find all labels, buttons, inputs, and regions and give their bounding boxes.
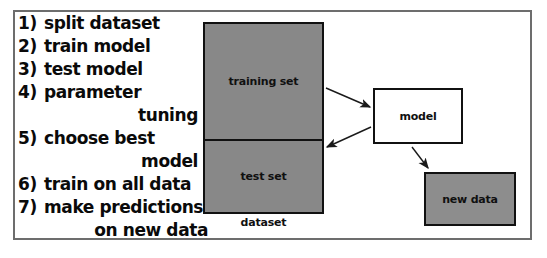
new-data-box: new data — [424, 172, 516, 226]
training-set-region: training set — [205, 24, 322, 141]
diagram-canvas: 1)split dataset 2)train model 3)test mod… — [0, 0, 547, 258]
step-number: 1) — [18, 12, 44, 35]
dataset-caption-label: dataset — [203, 216, 324, 229]
step-text: train on all data — [44, 173, 191, 196]
step-text-continuation: tuning — [138, 104, 198, 127]
step-text: test model — [44, 58, 143, 81]
dataset-box: training set test set — [203, 22, 324, 214]
list-item: 6)train on all data — [18, 173, 208, 196]
step-text: split dataset — [44, 12, 160, 35]
step-text-continuation: on new data — [94, 219, 208, 242]
list-item-continuation: on new data — [18, 219, 208, 242]
list-item-continuation: model — [18, 150, 208, 173]
list-item: 4)parameter — [18, 81, 208, 104]
new-data-label: new data — [442, 193, 498, 206]
list-item-continuation: tuning — [18, 104, 208, 127]
step-number: 6) — [18, 173, 44, 196]
step-number: 7) — [18, 196, 44, 219]
training-set-label: training set — [229, 75, 299, 88]
list-item: 2)train model — [18, 35, 208, 58]
step-text: make predictions — [44, 196, 203, 219]
list-item: 5)choose best — [18, 127, 208, 150]
list-item: 1)split dataset — [18, 12, 208, 35]
workflow-steps-list: 1)split dataset 2)train model 3)test mod… — [18, 12, 208, 242]
step-number: 3) — [18, 58, 44, 81]
step-number: 5) — [18, 127, 44, 150]
step-number: 2) — [18, 35, 44, 58]
model-label: model — [399, 110, 436, 123]
test-set-region: test set — [205, 141, 322, 212]
step-text: parameter — [44, 81, 141, 104]
list-item: 3)test model — [18, 58, 208, 81]
list-item: 7)make predictions — [18, 196, 208, 219]
model-box: model — [373, 88, 463, 144]
step-text-continuation: model — [141, 150, 198, 173]
step-text: choose best — [44, 127, 155, 150]
test-set-label: test set — [240, 170, 286, 183]
step-text: train model — [44, 35, 150, 58]
step-number: 4) — [18, 81, 44, 104]
